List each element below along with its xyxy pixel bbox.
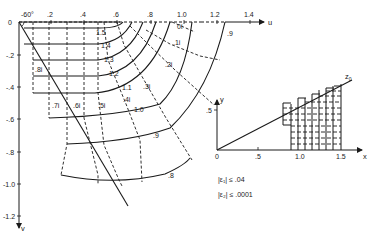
curve-label: 0i	[177, 23, 183, 30]
u-tick-label: .4	[80, 11, 86, 18]
epsilon1-bound: |ε₁| ≤ .04	[218, 176, 245, 184]
conformal-map-diagram: -60° .2 .4 .6 .8 1.0 1.2 1.4 u 0 -.2 -.4…	[0, 0, 378, 232]
z0-line	[217, 80, 352, 150]
angle-label: -60°	[21, 11, 34, 18]
x-axis-label: x	[363, 152, 367, 161]
u-axis-label: u	[268, 18, 272, 27]
u-tick-label: .8	[147, 11, 153, 18]
curve-label: .1i	[173, 39, 181, 46]
x-tick-label: 0	[215, 153, 219, 160]
grid-region	[283, 84, 341, 150]
v-tick-label: -.8	[6, 149, 14, 156]
u-tick-label: 1.2	[210, 11, 220, 18]
diagram-canvas: -60° .2 .4 .6 .8 1.0 1.2 1.4 u 0 -.2 -.4…	[0, 0, 378, 232]
x-tick-label: .5	[255, 153, 261, 160]
u-tick-label: .6	[113, 11, 119, 18]
v-tick-label: 0	[8, 19, 12, 26]
curve-label: 1.5	[96, 29, 106, 36]
curve-label: .8i	[35, 66, 43, 73]
curve-label: .3i	[143, 83, 151, 90]
u-tick-label: 1.4	[244, 11, 254, 18]
v-axis-label: v	[21, 224, 25, 232]
error-bounds: |ε₁| ≤ .04 |ε₂| ≤ .0001	[218, 176, 253, 199]
epsilon2-bound: |ε₂| ≤ .0001	[218, 191, 253, 199]
x-tick-label: 1.0	[295, 153, 305, 160]
curve-label: .9	[153, 132, 159, 139]
curve-label: .9	[227, 30, 233, 37]
curve-label: .2i	[165, 61, 173, 68]
curve-label: .8	[168, 172, 174, 179]
inset-plot: 0 .5 1.0 1.5 x .5 y z0	[206, 72, 367, 161]
v-tick-label: -1.0	[3, 181, 15, 188]
angle-arc	[22, 22, 24, 26]
v-tick-label: -1.2	[3, 213, 15, 220]
u-tick-label: 1.0	[177, 11, 187, 18]
imag-contours	[33, 22, 220, 186]
v-tick-label: -.4	[6, 84, 14, 91]
z0-label: z0	[345, 72, 352, 82]
y-tick-label: .5	[206, 107, 212, 114]
curve-label: 1.0	[134, 106, 144, 113]
curve-label: .7i	[52, 102, 60, 109]
curve-label: 1.1	[122, 84, 132, 91]
v-tick-label: -.6	[6, 116, 14, 123]
main-plot: -60° .2 .4 .6 .8 1.0 1.2 1.4 u 0 -.2 -.4…	[3, 11, 272, 232]
x-tick-label: 1.5	[336, 153, 346, 160]
v-tick-label: -.2	[6, 52, 14, 59]
curve-label: .5i	[98, 102, 106, 109]
u-tick-label: .2	[47, 11, 53, 18]
curve-label: .4i	[123, 96, 131, 103]
curve-label: 1.3	[104, 56, 114, 63]
curve-label: 1.2	[109, 70, 119, 77]
y-axis-label: y	[220, 95, 224, 104]
curve-label: .6i	[73, 102, 81, 109]
curve-label: 1.4	[101, 42, 111, 49]
